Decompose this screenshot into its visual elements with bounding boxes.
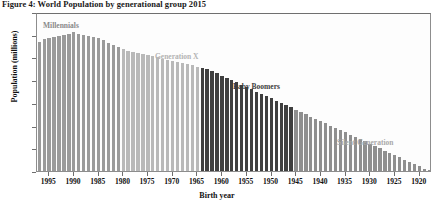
bar xyxy=(62,35,65,171)
x-axis-tick-mark xyxy=(271,172,272,176)
x-axis-tick-mark xyxy=(73,172,74,176)
bar xyxy=(275,101,278,171)
bar xyxy=(201,68,204,171)
annotation-baby-boomers: Baby Boomers xyxy=(233,82,280,91)
bar xyxy=(215,73,218,171)
x-axis-tick-mark xyxy=(221,172,222,176)
bar xyxy=(403,160,406,171)
bar xyxy=(196,67,199,171)
bar xyxy=(126,51,129,171)
bar xyxy=(388,153,391,171)
bar xyxy=(38,42,41,171)
bar xyxy=(280,103,283,171)
bar xyxy=(52,37,55,171)
bar xyxy=(334,128,337,171)
bar xyxy=(324,123,327,171)
bar xyxy=(47,38,50,171)
x-axis-tick-mark xyxy=(295,172,296,176)
bar xyxy=(122,49,125,171)
figure-container: Figure 4: World Population by generation… xyxy=(0,0,434,205)
bar xyxy=(151,56,154,171)
bar xyxy=(191,65,194,171)
bar xyxy=(230,80,233,171)
bar xyxy=(314,119,317,171)
bar xyxy=(299,112,302,171)
bar xyxy=(408,162,411,171)
bar xyxy=(131,52,134,171)
x-axis-title: Birth year xyxy=(0,191,434,200)
annotation-millennials: Millennials xyxy=(43,21,79,30)
bar xyxy=(339,130,342,171)
x-axis-tick-mark xyxy=(122,172,123,176)
bar xyxy=(383,151,386,171)
x-axis-tick-mark xyxy=(419,172,420,176)
bar xyxy=(220,76,223,171)
x-axis-tick-mark xyxy=(196,172,197,176)
bar xyxy=(398,157,401,171)
bar xyxy=(146,55,149,171)
x-axis-tick-mark xyxy=(394,172,395,176)
bar xyxy=(210,71,213,171)
bar xyxy=(319,121,322,171)
plot-area: Millennials Generation X Baby Boomers Si… xyxy=(36,13,431,172)
bar xyxy=(82,35,85,171)
bar xyxy=(225,78,228,171)
bar xyxy=(284,105,287,171)
bar xyxy=(186,64,189,171)
bars-layer xyxy=(37,14,430,171)
bar xyxy=(245,87,248,171)
bar xyxy=(413,164,416,171)
x-axis-tick-mark xyxy=(172,172,173,176)
x-axis-tick-mark xyxy=(246,172,247,176)
bar xyxy=(373,146,376,171)
x-axis-tick-label: 1920 xyxy=(402,177,434,186)
annotation-silent-generation: Silent Generation xyxy=(337,138,393,147)
bar xyxy=(304,114,307,171)
bar xyxy=(117,47,120,171)
bar xyxy=(171,61,174,171)
bar xyxy=(235,82,238,171)
bar xyxy=(428,170,431,171)
bar xyxy=(250,89,253,171)
bar xyxy=(329,126,332,171)
x-axis-tick-mark xyxy=(48,172,49,176)
bar xyxy=(265,96,268,171)
bar xyxy=(368,144,371,171)
bar xyxy=(136,53,139,171)
bar xyxy=(205,69,208,171)
x-axis-tick-mark xyxy=(320,172,321,176)
bar xyxy=(423,169,426,171)
bar xyxy=(240,85,243,171)
bar xyxy=(255,92,258,172)
bar xyxy=(156,57,159,171)
bar xyxy=(378,148,381,171)
bar xyxy=(72,32,75,171)
bar xyxy=(43,39,46,171)
x-axis-tick-mark xyxy=(147,172,148,176)
bar xyxy=(92,37,95,171)
x-axis-tick-mark xyxy=(345,172,346,176)
bar xyxy=(309,117,312,172)
bar xyxy=(294,110,297,171)
bar xyxy=(260,94,263,171)
bar xyxy=(102,40,105,171)
y-axis-tick-mark xyxy=(32,172,36,173)
bar xyxy=(181,63,184,171)
bar xyxy=(87,36,90,171)
annotation-generation-x: Generation X xyxy=(155,52,199,61)
bar xyxy=(166,60,169,171)
bar xyxy=(289,107,292,171)
bar xyxy=(270,98,273,171)
bar xyxy=(77,34,80,171)
y-axis-title: Population (millions) xyxy=(10,7,19,127)
bar xyxy=(107,43,110,171)
bar xyxy=(67,34,70,171)
bar xyxy=(97,38,100,171)
bar xyxy=(141,54,144,171)
bar xyxy=(112,45,115,171)
bar xyxy=(176,62,179,171)
figure-title: Figure 4: World Population by generation… xyxy=(2,0,206,9)
x-axis-tick-mark xyxy=(369,172,370,176)
bar xyxy=(393,155,396,171)
x-axis-tick-mark xyxy=(98,172,99,176)
